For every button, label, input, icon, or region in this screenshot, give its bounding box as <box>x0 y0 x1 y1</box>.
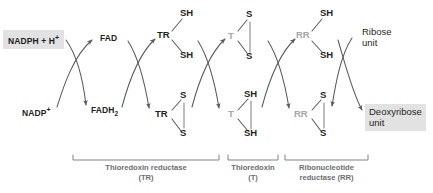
caption-thioredoxin: Thioredoxin (T) <box>221 163 285 183</box>
bond-tr-top-sh-upper <box>172 19 182 31</box>
deoxyribose-line2: unit <box>369 117 384 128</box>
label-ribose-unit: Ribose unit <box>362 26 392 48</box>
rr-top-thiol-lower: SH <box>320 50 333 60</box>
curve-trsh-to-fadh2 <box>122 39 155 107</box>
bracket-thioredoxin-reductase <box>73 155 219 160</box>
rr-bottom-sulfur-upper: S <box>320 90 326 100</box>
enzyme-t-oxidized: T <box>228 31 234 41</box>
bracket-ribonucleotide-reductase <box>285 155 368 160</box>
t-top-sulfur-upper: S <box>246 9 252 19</box>
t-bottom-thiol-lower: SH <box>244 128 257 138</box>
t-top-sulfur-lower: S <box>246 51 252 61</box>
curve-rrsh-to-tss <box>262 39 295 107</box>
curve-trsh-to-tss <box>198 41 219 108</box>
label-fad: FAD <box>100 34 117 43</box>
caption-rr-line1: Ribonucleotide <box>299 163 354 172</box>
caption-thioredoxin-reductase: Thioredoxin reductase (TR) <box>73 163 219 183</box>
nadp-charge: + <box>47 106 51 113</box>
bond-t-bottom-sh-upper <box>238 99 248 110</box>
fadh2-text: FADH <box>91 105 115 115</box>
tr-top-thiol-upper: SH <box>180 8 193 18</box>
fadh2-subscript: 2 <box>115 110 119 117</box>
rr-bottom-sulfur-lower: S <box>320 128 326 138</box>
ribose-line2: unit <box>362 37 377 48</box>
enzyme-tr-reduced: TR <box>157 30 170 40</box>
t-bottom-thiol-upper: SH <box>244 89 257 99</box>
curve-tsh-to-rrss <box>268 41 289 108</box>
caption-tr-line1: Thioredoxin reductase <box>105 163 186 172</box>
enzyme-t-reduced: T <box>228 109 234 119</box>
curve-ribose-to-rrss <box>332 38 352 106</box>
curve-tsh-to-trss <box>192 39 225 107</box>
label-nadph: NADPH + H+ <box>3 30 64 49</box>
rr-top-thiol-upper: SH <box>320 8 333 18</box>
caption-rr-line2: reductase (RR) <box>299 173 353 182</box>
bond-rr-bottom-s-upper <box>312 100 321 110</box>
caption-tr-line2: (TR) <box>138 173 153 182</box>
curve-fad-to-trss <box>128 41 149 108</box>
label-fadh2: FADH2 <box>91 106 118 118</box>
ribose-line1: Ribose <box>362 26 392 37</box>
nadph-charge: + <box>55 34 59 41</box>
bond-tr-bottom-s-upper <box>172 100 181 110</box>
enzyme-tr-oxidized: TR <box>155 109 168 119</box>
caption-t-line2: (T) <box>248 173 258 182</box>
curve-rrsh-to-deoxyribose <box>338 40 362 110</box>
bond-rr-top-sh-upper <box>312 19 322 31</box>
bond-t-top-s-upper <box>238 20 247 31</box>
label-deoxyribose-unit: Deoxyribose unit <box>365 104 426 131</box>
label-nadp: NADP+ <box>22 106 51 118</box>
tr-bottom-sulfur-upper: S <box>180 90 186 100</box>
nadp-text: NADP <box>22 108 47 118</box>
tr-bottom-sulfur-lower: S <box>180 128 186 138</box>
nadph-text: NADPH + H <box>8 35 55 45</box>
enzyme-rr-oxidized: RR <box>294 109 308 119</box>
caption-t-line1: Thioredoxin <box>231 163 274 172</box>
caption-ribonucleotide-reductase: Ribonucleotide reductase (RR) <box>285 163 368 183</box>
curve-nadp-to-fad <box>57 40 92 107</box>
deoxyribose-line1: Deoxyribose <box>369 106 422 117</box>
bracket-thioredoxin <box>228 155 278 160</box>
tr-top-thiol-lower: SH <box>180 50 193 60</box>
enzyme-rr-reduced: RR <box>296 30 310 40</box>
